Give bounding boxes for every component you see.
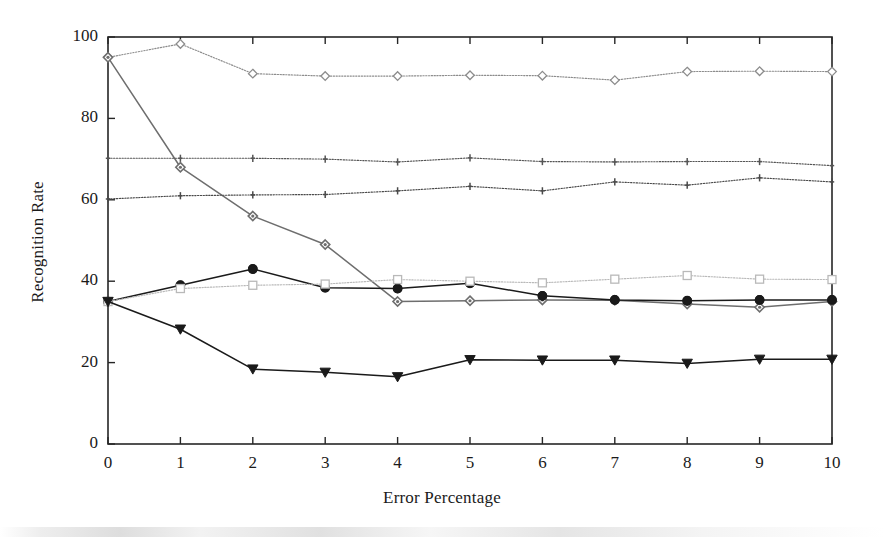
data-point-marker-circle-filled bbox=[538, 292, 546, 300]
data-point-marker-diamond-open bbox=[176, 40, 185, 49]
data-point-marker-square-open bbox=[756, 275, 764, 283]
x-tick-label-0: 0 bbox=[88, 453, 128, 473]
data-point-marker-diamond-open bbox=[538, 71, 547, 80]
data-point-marker-circle-filled bbox=[611, 296, 619, 304]
data-point-marker-diamond-open bbox=[321, 72, 330, 81]
series-series-4-flat-mid-plus bbox=[106, 174, 834, 202]
data-point-marker-diamond-filled bbox=[248, 211, 257, 220]
data-point-marker-plus bbox=[251, 191, 255, 198]
data-point-marker-plus bbox=[685, 158, 689, 165]
data-point-marker-diamond-open bbox=[466, 71, 475, 80]
data-point-marker-square-open bbox=[176, 285, 184, 293]
data-point-marker-square-open bbox=[683, 272, 691, 280]
axis-ticks bbox=[108, 37, 832, 444]
data-point-marker-diamond-filled bbox=[103, 53, 112, 62]
data-point-marker-plus bbox=[757, 158, 761, 165]
data-point-marker-circle-filled bbox=[828, 296, 836, 304]
x-tick-label-8: 8 bbox=[667, 453, 707, 473]
data-point-marker-plus bbox=[323, 156, 327, 163]
series-series-2-descending-diamond bbox=[103, 53, 836, 312]
data-point-marker-circle-filled bbox=[249, 265, 257, 273]
x-tick-label-2: 2 bbox=[233, 453, 273, 473]
x-tick-label-7: 7 bbox=[595, 453, 635, 473]
data-point-marker-plus bbox=[106, 155, 110, 162]
data-point-marker-plus bbox=[540, 187, 544, 194]
data-point-marker-circle-filled bbox=[683, 297, 691, 305]
y-tick-label-0: 0 bbox=[54, 433, 98, 453]
x-tick-label-9: 9 bbox=[740, 453, 780, 473]
y-axis-title: Recognition Rate bbox=[28, 142, 48, 342]
x-tick-label-3: 3 bbox=[305, 453, 345, 473]
data-point-marker-diamond-open bbox=[828, 67, 837, 76]
series-series-3-flat-high-plus bbox=[106, 154, 834, 169]
data-point-marker-square-open bbox=[466, 277, 474, 285]
data-point-marker-plus bbox=[395, 158, 399, 165]
data-point-marker-diamond-open bbox=[611, 76, 620, 85]
data-point-marker-square-open bbox=[611, 275, 619, 283]
data-point-marker-plus bbox=[830, 162, 834, 169]
x-tick-label-4: 4 bbox=[378, 453, 418, 473]
x-tick-label-10: 10 bbox=[812, 453, 852, 473]
x-tick-label-1: 1 bbox=[160, 453, 200, 473]
data-series-group bbox=[103, 40, 837, 382]
data-point-marker-plus bbox=[178, 155, 182, 162]
data-point-marker-circle-filled bbox=[755, 296, 763, 304]
y-tick-label-40: 40 bbox=[54, 270, 98, 290]
data-point-marker-plus bbox=[613, 178, 617, 185]
data-point-marker-plus bbox=[468, 154, 472, 161]
data-point-marker-plus bbox=[540, 158, 544, 165]
data-point-marker-circle-filled bbox=[393, 284, 401, 292]
data-point-marker-plus bbox=[106, 195, 110, 202]
data-point-marker-triangle-down-filled bbox=[175, 325, 185, 334]
data-point-marker-plus bbox=[685, 182, 689, 189]
data-point-marker-diamond-filled bbox=[176, 163, 185, 172]
y-tick-label-20: 20 bbox=[54, 352, 98, 372]
data-point-marker-square-open bbox=[538, 279, 546, 287]
series-series-7-triangle-down bbox=[103, 297, 837, 381]
data-point-marker-plus bbox=[613, 158, 617, 165]
data-point-marker-diamond-open bbox=[683, 67, 692, 76]
data-point-marker-diamond-filled bbox=[465, 296, 474, 305]
axes-frame bbox=[108, 37, 832, 444]
data-point-marker-square-open bbox=[249, 281, 257, 289]
data-point-marker-plus bbox=[468, 183, 472, 190]
data-point-marker-plus bbox=[395, 187, 399, 194]
data-point-marker-square-open bbox=[828, 276, 836, 284]
y-tick-label-80: 80 bbox=[54, 107, 98, 127]
x-axis-title: Error Percentage bbox=[0, 488, 884, 508]
data-point-marker-plus bbox=[323, 191, 327, 198]
data-point-marker-diamond-open bbox=[249, 69, 258, 78]
data-point-marker-plus bbox=[830, 178, 834, 185]
data-point-marker-square-open bbox=[394, 276, 402, 284]
data-point-marker-diamond-open bbox=[755, 67, 764, 76]
data-point-marker-square-open bbox=[321, 280, 329, 288]
x-tick-label-6: 6 bbox=[522, 453, 562, 473]
page-scan-artifact bbox=[0, 527, 884, 537]
data-point-marker-plus bbox=[757, 174, 761, 181]
data-point-marker-plus bbox=[251, 155, 255, 162]
data-point-marker-diamond-open bbox=[393, 72, 402, 81]
y-tick-label-100: 100 bbox=[54, 26, 98, 46]
recognition-rate-chart: 020406080100 012345678910 Recognition Ra… bbox=[0, 0, 884, 537]
data-point-marker-plus bbox=[178, 192, 182, 199]
x-tick-label-5: 5 bbox=[450, 453, 490, 473]
y-tick-label-60: 60 bbox=[54, 189, 98, 209]
series-series-1-top-dotted-diamond bbox=[104, 40, 837, 85]
